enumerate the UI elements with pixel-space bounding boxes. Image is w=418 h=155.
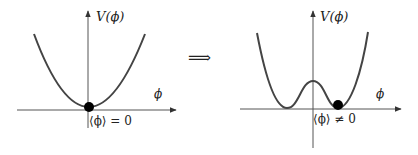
right-x-label: ϕ (376, 88, 384, 100)
right-y-label: V(ϕ) (320, 10, 348, 23)
left-plot (17, 11, 176, 128)
left-x-label: ϕ (154, 88, 162, 100)
implies-arrow: ⟹ (188, 50, 211, 66)
left-vev-label: ⟨ϕ⟩ = 0 (89, 115, 132, 127)
left-vacuum-dot (84, 102, 94, 112)
right-vev-label: ⟨ϕ⟩ ≠ 0 (313, 113, 356, 125)
right-plot (240, 11, 401, 148)
potential-diagram (0, 0, 418, 155)
left-parabola (34, 34, 145, 107)
right-vacuum-dot (333, 100, 343, 110)
left-y-label: V(ϕ) (96, 10, 124, 23)
